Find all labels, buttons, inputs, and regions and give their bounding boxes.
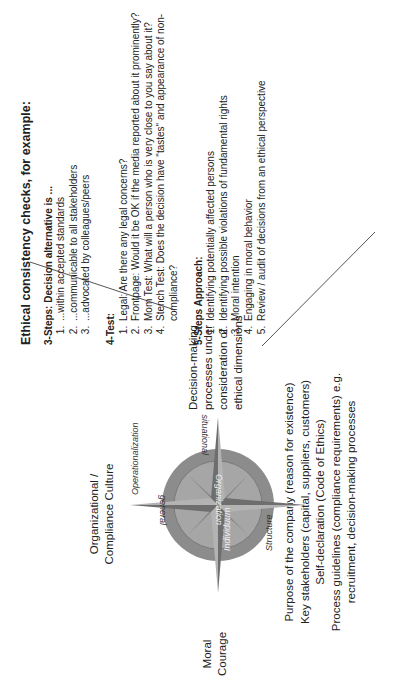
list-item: ...advocated by colleagues/peers bbox=[80, 5, 93, 323]
list-item: Frontpage: Would it be OK if the media r… bbox=[130, 5, 143, 323]
decision-line: ethical dimensions bbox=[231, 290, 246, 410]
decision-line: processes under bbox=[201, 290, 216, 410]
ethics-compass: general situational Structure Operationa… bbox=[128, 415, 308, 595]
compass-label-south: general bbox=[158, 495, 168, 525]
list-item: Stench Test: Does the decision have "tas… bbox=[155, 5, 180, 323]
compliance-culture-label: Organizational / Compliance Culture bbox=[87, 454, 117, 574]
list-item: ...communicable to all stakeholders bbox=[68, 5, 81, 323]
compass-label-situational: situational bbox=[200, 414, 210, 455]
courage-line: Moral bbox=[200, 624, 215, 684]
decision-making-label: Decision-making processes under consider… bbox=[186, 290, 246, 410]
decision-line: Decision-making bbox=[186, 290, 201, 410]
courage-line: Courage bbox=[215, 624, 230, 684]
decision-line: consideration of bbox=[216, 290, 231, 410]
list-item: Mom Test: What will a person who is very… bbox=[143, 5, 156, 323]
list-item: Moral intention bbox=[230, 5, 243, 323]
compass-axis-individuum: Individuum bbox=[222, 507, 232, 551]
foundation-line: Self-declaration (Code of Ethics) bbox=[313, 352, 329, 652]
compass-label-west: Operationalization bbox=[130, 422, 140, 495]
culture-line: Organizational / bbox=[87, 454, 102, 574]
compass-label-east: Structure bbox=[264, 514, 274, 551]
three-steps-heading: 3-Steps: Decision alternative is ... bbox=[43, 5, 56, 345]
ethical-checks-title: Ethical consistency checks, for example: bbox=[20, 5, 33, 345]
list-item: Identifying possible violations of funda… bbox=[218, 5, 231, 323]
list-item: Engaging in moral behavior bbox=[243, 5, 256, 323]
list-item: Identifying potentially affected persons bbox=[205, 5, 218, 323]
foundation-line: Process guidelines (compliance requireme… bbox=[329, 352, 345, 652]
diagram-canvas: Ethical consistency checks, for example:… bbox=[0, 0, 393, 692]
culture-line: Compliance Culture bbox=[102, 454, 117, 574]
four-test-list: Legal: Are there any legal concerns? Fro… bbox=[118, 5, 181, 345]
list-item: ...within accepted standards bbox=[55, 5, 68, 323]
three-steps-list: ...within accepted standards ...communic… bbox=[55, 5, 93, 345]
foundation-line: recruitment, decision-making processes bbox=[344, 352, 360, 652]
list-item: Legal: Are there any legal concerns? bbox=[118, 5, 131, 323]
moral-courage-label: Moral Courage bbox=[200, 624, 230, 684]
four-test-heading: 4-Test: bbox=[105, 5, 118, 345]
list-item: Review / audit of decisions from an ethi… bbox=[256, 5, 269, 323]
